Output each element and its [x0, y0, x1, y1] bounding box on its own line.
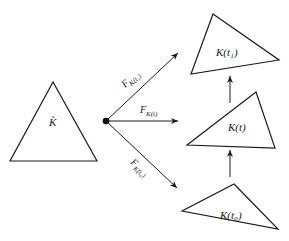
triangle-K-t0-label: K(t₀) — [219, 209, 242, 222]
svg-text:FK(t): FK(t) — [139, 104, 158, 118]
diagram-svg: K̂ FK(t₁) FK(t) FK(t₀) K(t₁) K(t) K(t₀) — [0, 0, 289, 241]
triangle-K-t1-label: K(t₁) — [215, 46, 238, 59]
triangle-K-t0 — [182, 184, 278, 229]
triangle-K-t1 — [191, 14, 279, 74]
reference-triangle-label: K̂ — [48, 116, 57, 128]
map-label-t: FK(t) — [139, 104, 158, 118]
triangle-K-t-label: K(t) — [227, 121, 246, 134]
svg-text:FK(t₀): FK(t₀) — [126, 155, 151, 180]
triangle-K-t — [187, 92, 275, 148]
diagram-canvas: K̂ FK(t₁) FK(t) FK(t₀) K(t₁) K(t) K(t₀) — [0, 0, 289, 241]
map-label-t0: FK(t₀) — [126, 155, 151, 180]
